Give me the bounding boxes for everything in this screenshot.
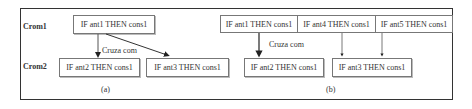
arrow-a-2 [106,34,167,55]
arrows-layer [0,0,472,109]
